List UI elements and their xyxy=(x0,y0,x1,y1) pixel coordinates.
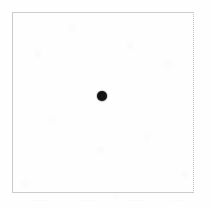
plot-frame-border xyxy=(12,12,194,193)
scatter-data-point-marker xyxy=(97,91,107,101)
figure-canvas xyxy=(0,0,210,208)
paper-smudge-artifact xyxy=(14,196,196,205)
